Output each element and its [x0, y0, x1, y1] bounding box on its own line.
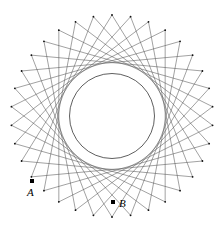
star-chord — [15, 41, 180, 88]
vertex-dot-group — [11, 14, 214, 218]
star-vertex-dot — [212, 106, 214, 108]
star-vertex-dot — [43, 190, 45, 192]
star-vertex-dot — [11, 124, 13, 126]
star-vertex-dot — [202, 70, 204, 72]
star-vertex-dot — [179, 40, 181, 42]
star-vertex-dot — [14, 143, 16, 145]
star-chord — [11, 125, 165, 202]
star-vertex-dot — [130, 16, 132, 18]
star-chord — [112, 71, 202, 217]
star-chord — [31, 17, 93, 177]
star-vertex-dot — [21, 70, 23, 72]
inner-circle-outline — [70, 74, 155, 159]
point-label-a: A — [27, 187, 34, 198]
star-vertex-dot — [21, 160, 23, 162]
star-vertex-dot — [202, 160, 204, 162]
star-chord — [131, 55, 193, 215]
star-vertex-dot — [75, 21, 77, 23]
star-chord — [22, 15, 112, 161]
star-vertex-dot — [58, 29, 60, 31]
star-vertex-dot — [208, 143, 210, 145]
star-chord — [11, 22, 148, 126]
star-chord — [31, 55, 93, 215]
star-vertex-dot — [75, 209, 77, 211]
star-chord — [59, 125, 213, 202]
chord-group — [11, 15, 212, 217]
star-vertex-dot — [11, 106, 13, 108]
marked-point-a — [30, 179, 34, 183]
marked-point-b — [111, 200, 115, 204]
star-vertex-dot — [148, 209, 150, 211]
star-vertex-dot — [31, 54, 33, 56]
star-vertex-dot — [148, 21, 150, 23]
star-chord — [44, 41, 209, 88]
inner-envelope-circle — [70, 74, 155, 159]
star-polygon-figure: A B — [0, 0, 224, 232]
star-vertex-dot — [192, 176, 194, 178]
star-chord — [59, 30, 213, 107]
star-chord — [112, 15, 202, 161]
star-chord — [11, 30, 165, 107]
star-chord — [22, 71, 112, 217]
star-vertex-dot — [111, 216, 113, 218]
star-chord — [76, 22, 213, 126]
star-chord — [15, 144, 180, 191]
point-label-b: B — [119, 198, 126, 209]
star-vertex-dot — [179, 190, 181, 192]
star-vertex-dot — [58, 201, 60, 203]
star-vertex-dot — [111, 14, 113, 16]
star-vertex-dot — [164, 201, 166, 203]
star-vertex-dot — [93, 16, 95, 18]
star-vertex-dot — [31, 176, 33, 178]
star-vertex-dot — [43, 40, 45, 42]
star-vertex-dot — [93, 214, 95, 216]
star-chord — [44, 144, 209, 191]
star-vertex-dot — [212, 124, 214, 126]
star-chord — [76, 107, 213, 210]
star-vertex-dot — [14, 87, 16, 89]
star-vertex-dot — [192, 54, 194, 56]
star-vertex-dot — [208, 87, 210, 89]
star-vertex-dot — [130, 214, 132, 216]
star-chord — [131, 17, 193, 177]
star-vertex-dot — [164, 29, 166, 31]
